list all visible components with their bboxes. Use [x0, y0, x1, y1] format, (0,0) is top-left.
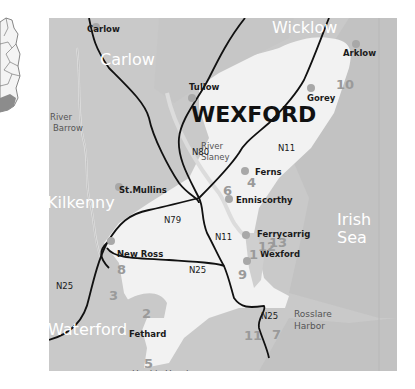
site-number: 10 — [336, 78, 354, 91]
town-dot — [352, 40, 360, 48]
sea-label-line1: Irish — [337, 211, 371, 229]
town-dot — [307, 84, 315, 92]
wexford-map: Carlow Wicklow Kilkenny Waterford WEXFOR… — [49, 18, 397, 371]
county-label-kilkenny: Kilkenny — [49, 195, 115, 211]
road-label-n25-east: N25 — [189, 266, 206, 275]
place-rosslare-harbor: Rosslare Harbor — [294, 308, 332, 332]
inset-locator-map — [0, 14, 22, 120]
site-number: 6 — [223, 184, 232, 197]
site-number: 3 — [109, 289, 118, 302]
town-gorey: Gorey — [307, 94, 335, 103]
town-arklow: Arklow — [343, 49, 376, 58]
river-label-line1: River — [50, 112, 83, 123]
site-number: 12 — [258, 240, 276, 253]
town-fethard: Fethard — [129, 330, 166, 339]
county-label-carlow: Carlow — [100, 52, 155, 68]
map-title: WEXFORD — [191, 104, 316, 126]
town-new-ross: New Ross — [117, 250, 163, 259]
site-number: 7 — [272, 328, 281, 341]
town-st-mullins: St.Mullins — [119, 186, 167, 195]
site-number: 9 — [238, 268, 247, 281]
town-dot — [188, 94, 196, 102]
site-number: 1 — [249, 248, 258, 261]
town-dot — [241, 167, 249, 175]
site-number: 2 — [142, 307, 151, 320]
town-enniscorthy: Enniscorthy — [236, 196, 293, 205]
river-label-line2: Barrow — [50, 123, 83, 134]
town-dot — [107, 237, 115, 245]
county-label-wicklow: Wicklow — [272, 20, 337, 36]
town-ferns: Ferns — [255, 168, 282, 177]
site-number: 8 — [117, 263, 126, 276]
sea-label: Irish Sea — [337, 211, 371, 247]
place-hooks-head: Hook's Head — [132, 368, 189, 371]
road-label-n11-south: N11 — [215, 233, 232, 242]
ireland-locator-map-icon — [0, 14, 22, 120]
site-number: 11 — [244, 329, 262, 342]
road-label-n80: N80 — [192, 148, 209, 157]
road-label-n25-rosslare: N25 — [261, 312, 278, 321]
town-dot — [242, 231, 250, 239]
road-label-n79: N79 — [164, 216, 181, 225]
site-number: 5 — [144, 357, 153, 370]
road-label-n25-west: N25 — [56, 282, 73, 291]
county-label-waterford: Waterford — [49, 322, 127, 338]
site-number: 4 — [247, 176, 256, 189]
town-carlow: Carlow — [87, 25, 120, 34]
sea-label-line2: Sea — [337, 229, 371, 247]
place-line2: Harbor — [294, 320, 332, 332]
town-tullow: Tullow — [189, 83, 219, 92]
road-label-n11-north: N11 — [278, 144, 295, 153]
river-label-barrow: River Barrow — [50, 112, 83, 134]
place-line1: Rosslare — [294, 308, 332, 320]
